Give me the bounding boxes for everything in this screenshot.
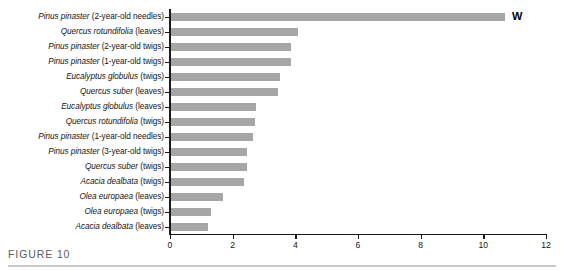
x-axis-tick [483, 234, 484, 239]
bar [170, 43, 291, 51]
y-axis-tick [165, 137, 170, 138]
species-name: Pinus pinaster [48, 147, 99, 156]
figure-container: Pinus pinaster (2-year-old needles)Querc… [0, 0, 562, 271]
species-name: Olea europaea [80, 192, 134, 201]
species-name: Acacia dealbata [76, 222, 134, 231]
category-label: Olea europaea (twigs) [0, 204, 164, 219]
bar [170, 223, 208, 231]
y-axis-tick [165, 107, 170, 108]
y-axis-tick [165, 182, 170, 183]
species-name: Pinus pinaster [48, 42, 99, 51]
species-qualifier: (leaves) [133, 222, 164, 231]
bar [170, 163, 247, 171]
bar-row [170, 24, 546, 39]
bar [170, 13, 505, 21]
bar [170, 73, 280, 81]
bar [170, 88, 278, 96]
bar-row [170, 99, 546, 114]
y-axis-tick [165, 227, 170, 228]
x-axis-tick [421, 234, 422, 239]
species-name: Pinus pinaster [38, 12, 89, 21]
bar-row [170, 69, 546, 84]
category-label: Quercus rotundifolia (twigs) [0, 114, 164, 129]
bar-row [170, 84, 546, 99]
bar-row [170, 144, 546, 159]
species-qualifier: (3-year-old twigs) [99, 147, 164, 156]
category-label: Acacia dealbata (twigs) [0, 174, 164, 189]
bar-row [170, 54, 546, 69]
y-axis-tick [165, 152, 170, 153]
species-qualifier: (leaves) [133, 87, 164, 96]
species-qualifier: (1-year-old needles) [90, 132, 165, 141]
species-qualifier: (1-year-old twigs) [99, 57, 164, 66]
species-name: Eucalyptus globulus [61, 102, 133, 111]
bar [170, 193, 223, 201]
species-qualifier: (leaves) [133, 192, 164, 201]
category-label: Quercus suber (twigs) [0, 159, 164, 174]
species-qualifier: (twigs) [138, 117, 164, 126]
bars-region [170, 9, 546, 234]
y-axis-tick [165, 122, 170, 123]
species-qualifier: (twigs) [138, 72, 164, 81]
bar-row [170, 114, 546, 129]
category-label: Quercus rotundifolia (leaves) [0, 24, 164, 39]
species-qualifier: (twigs) [138, 207, 164, 216]
bar-row [170, 204, 546, 219]
y-axis-tick [165, 77, 170, 78]
bar [170, 58, 291, 66]
y-axis-tick [165, 167, 170, 168]
bar [170, 178, 244, 186]
species-name: Pinus pinaster [48, 57, 99, 66]
x-axis-tick [233, 234, 234, 239]
species-name: Quercus suber [80, 87, 133, 96]
y-axis-tick [165, 62, 170, 63]
y-axis-tick [165, 92, 170, 93]
category-label: Olea europaea (leaves) [0, 189, 164, 204]
category-label: Eucalyptus globulus (leaves) [0, 99, 164, 114]
species-name: Quercus rotundifolia [61, 27, 133, 36]
caption-divider [8, 265, 556, 267]
category-label: Pinus pinaster (2-year-old needles) [0, 9, 164, 24]
y-axis-tick [165, 32, 170, 33]
bar-row [170, 129, 546, 144]
bar [170, 208, 211, 216]
x-axis-tick [295, 234, 296, 239]
bar [170, 118, 255, 126]
x-axis-tick [170, 234, 171, 239]
bar [170, 148, 247, 156]
category-label: Pinus pinaster (2-year-old twigs) [0, 39, 164, 54]
y-axis-tick [165, 197, 170, 198]
category-label: Pinus pinaster (1-year-old needles) [0, 129, 164, 144]
bar-row [170, 39, 546, 54]
x-axis-tick [358, 234, 359, 239]
species-name: Pinus pinaster [38, 132, 89, 141]
species-name: Eucalyptus globulus [66, 72, 138, 81]
figure-caption-label: FIGURE 10 [8, 248, 70, 260]
species-qualifier: (twigs) [138, 162, 164, 171]
bar-chart: Pinus pinaster (2-year-old needles)Querc… [0, 0, 562, 240]
category-label: Acacia dealbata (leaves) [0, 219, 164, 234]
species-name: Acacia dealbata [81, 177, 139, 186]
category-label: Quercus suber (leaves) [0, 84, 164, 99]
x-axis-tick [546, 234, 547, 239]
category-label: Pinus pinaster (3-year-old twigs) [0, 144, 164, 159]
y-axis-tick [165, 212, 170, 213]
species-qualifier: (2-year-old twigs) [99, 42, 164, 51]
species-name: Olea europaea [84, 207, 138, 216]
species-qualifier: (2-year-old needles) [90, 12, 165, 21]
bar-row [170, 174, 546, 189]
species-qualifier: (leaves) [133, 102, 164, 111]
y-axis-tick [165, 17, 170, 18]
bar [170, 28, 298, 36]
figure-caption-block: FIGURE 10 [0, 248, 562, 271]
bar-row [170, 9, 546, 24]
species-name: Quercus rotundifolia [66, 117, 138, 126]
y-axis-tick [165, 47, 170, 48]
bar [170, 133, 253, 141]
bar-row [170, 189, 546, 204]
bar-row [170, 219, 546, 234]
species-qualifier: (leaves) [133, 27, 164, 36]
species-qualifier: (twigs) [138, 177, 164, 186]
category-label: Eucalyptus globulus (twigs) [0, 69, 164, 84]
category-axis-labels: Pinus pinaster (2-year-old needles)Querc… [0, 9, 168, 234]
